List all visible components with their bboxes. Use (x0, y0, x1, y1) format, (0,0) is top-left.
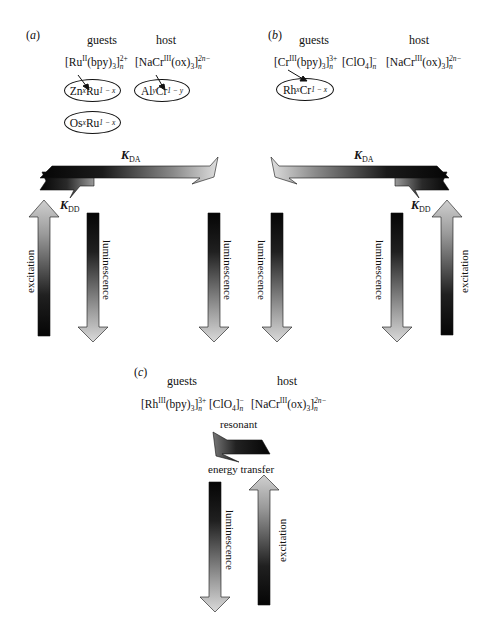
luminescence-label-a-2: luminescence (222, 240, 234, 300)
ellipse-al-cr: AlyCr1 − y (134, 79, 190, 102)
panel-label-c: (c) (134, 365, 147, 380)
ellipse-rh-cr: RhxCr1 − x (276, 78, 334, 101)
luminescence-label-b-2: luminescence (374, 240, 386, 300)
host-heading-b: host (409, 33, 429, 48)
excitation-label-c: excitation (276, 519, 288, 562)
resonant-transfer-arrow-body (213, 432, 270, 462)
panel-label-b: (b) (268, 28, 282, 43)
guest-formula-b: [CrIII(bpy)3]3+n (274, 55, 337, 71)
ellipse-os-ru: OsxRu1 − x (64, 111, 121, 134)
luminescence-label-b-1: luminescence (256, 240, 268, 300)
host-formula-c: [NaCrIII(ox)3]2n−n (251, 397, 327, 413)
luminescence-label-a-1: luminescence (101, 240, 113, 300)
counter-ion-b: [ClO4]−n (342, 55, 377, 71)
excitation-label-a: excitation (24, 250, 36, 293)
guest-formula-a: [RuII(bpy)3]2+n (65, 55, 128, 71)
host-formula-b: [NaCrIII(ox)3]2n−n (386, 55, 462, 71)
kda-label-b: KDA (354, 148, 374, 164)
excitation-arrow-c (249, 475, 279, 605)
luminescence-arrow-b-2 (382, 213, 412, 342)
kdd-label-a: KDD (60, 198, 80, 214)
energy-transfer-label: energy transfer (208, 463, 274, 475)
counter-ion-c: [ClO4]−n (209, 397, 244, 413)
kdd-label-b: KDD (411, 198, 431, 214)
kda-label-a: KDA (121, 148, 141, 164)
host-formula-a: [NaCrIII(ox)3]2n−n (135, 55, 211, 71)
resonant-label: resonant (220, 418, 257, 430)
luminescence-label-c: luminescence (224, 510, 236, 570)
ellipse-zn-ru: ZnxRu1 − x (64, 79, 121, 102)
guests-heading-b: guests (299, 33, 329, 48)
host-heading-a: host (156, 33, 176, 48)
host-heading-c: host (277, 374, 297, 389)
panel-label-a: (a) (26, 28, 40, 43)
guests-heading-a: guests (87, 33, 117, 48)
guests-heading-c: guests (167, 374, 197, 389)
guest-formula-c: [RhIII(bpy)3]3+n (141, 397, 206, 413)
excitation-label-b: excitation (458, 250, 470, 293)
